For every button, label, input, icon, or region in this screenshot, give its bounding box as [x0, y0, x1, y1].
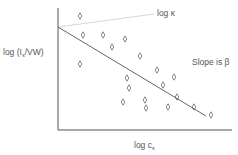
- y-axis-label-post: /VW): [25, 47, 44, 57]
- diamond-marker: [81, 32, 85, 38]
- x-axis-label-main: log c: [134, 140, 152, 150]
- diamond-marker: [121, 99, 125, 105]
- diamond-marker: [127, 85, 131, 91]
- diamond-marker: [110, 44, 114, 50]
- kappa-leader-line: [58, 14, 154, 27]
- diamond-marker: [161, 82, 165, 88]
- y-axis-label: log (Is/VW): [3, 48, 44, 59]
- diamond-marker: [123, 36, 127, 42]
- diamond-marker: [155, 67, 159, 73]
- diamond-marker: [78, 61, 82, 67]
- kappa-leader: [58, 14, 154, 27]
- regression-line: [58, 27, 206, 116]
- slope-annotation: Slope is β: [192, 58, 230, 67]
- kappa-annotation: log κ: [157, 9, 175, 18]
- diamond-marker: [138, 53, 142, 59]
- fit-line: [58, 27, 206, 116]
- diamond-marker: [209, 112, 213, 118]
- diamond-marker: [144, 105, 148, 111]
- y-axis-label-pre: log (I: [3, 47, 22, 57]
- diamond-marker: [166, 104, 170, 110]
- x-axis-label: log cs: [134, 141, 155, 152]
- diamond-marker: [101, 32, 105, 38]
- axes: [58, 8, 232, 130]
- diamond-marker: [78, 13, 82, 19]
- diamond-marker: [172, 74, 176, 80]
- scatter-chart: [0, 0, 238, 155]
- x-axis-label-sub: s: [152, 145, 155, 151]
- diamond-marker: [143, 97, 147, 103]
- diamond-marker: [125, 75, 129, 81]
